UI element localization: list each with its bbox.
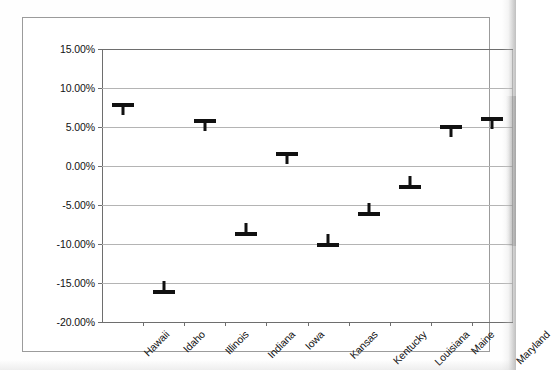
data-marker bbox=[358, 203, 380, 216]
x-axis-label-maryland: Maryland bbox=[514, 328, 552, 366]
y-axis-tick-mark bbox=[98, 322, 102, 323]
plot-area: 15.00%10.00%5.00%0.00%-5.00%-10.00%-15.0… bbox=[102, 49, 513, 322]
data-marker bbox=[153, 281, 175, 294]
data-marker bbox=[194, 119, 216, 132]
data-marker bbox=[399, 176, 421, 189]
y-axis-tick-label: -15.00% bbox=[57, 277, 95, 289]
x-axis-label-hawaii: Hawaii bbox=[141, 328, 171, 358]
data-marker bbox=[440, 125, 462, 138]
y-axis-tick-label: -20.00% bbox=[57, 316, 95, 328]
data-marker-stem bbox=[121, 106, 124, 115]
y-axis-tick-label: 5.00% bbox=[66, 121, 95, 133]
data-marker bbox=[235, 223, 257, 236]
data-marker-stem bbox=[162, 281, 165, 290]
data-marker-bar bbox=[317, 243, 339, 247]
data-marker-stem bbox=[491, 120, 494, 129]
x-axis-label-maine: Maine bbox=[469, 328, 497, 356]
x-axis-label-iowa: Iowa bbox=[302, 328, 326, 352]
y-axis-line bbox=[102, 49, 103, 322]
data-marker-stem bbox=[285, 155, 288, 164]
data-marker-bar bbox=[399, 185, 421, 189]
y-axis-tick-label: -5.00% bbox=[62, 199, 95, 211]
data-marker-stem bbox=[203, 122, 206, 131]
x-axis-category-labels: HawaiiIdahoIllinoisIndianaIowaKansasKent… bbox=[102, 326, 513, 370]
data-marker-stem bbox=[450, 128, 453, 137]
data-marker-bar bbox=[235, 232, 257, 236]
y-axis-tick-label: 10.00% bbox=[60, 82, 95, 94]
gridline bbox=[102, 49, 513, 50]
x-axis-label-kentucky: Kentucky bbox=[391, 328, 429, 366]
chart-outer-frame: 15.00%10.00%5.00%0.00%-5.00%-10.00%-15.0… bbox=[22, 17, 490, 352]
data-marker-stem bbox=[368, 203, 371, 212]
y-axis-tick-mark bbox=[98, 166, 102, 167]
y-axis-tick-mark bbox=[98, 205, 102, 206]
y-axis-tick-mark bbox=[98, 88, 102, 89]
y-axis-tick-mark bbox=[98, 244, 102, 245]
y-axis-tick-mark bbox=[98, 49, 102, 50]
data-marker-stem bbox=[327, 234, 330, 243]
x-axis-label-louisiana: Louisiana bbox=[432, 328, 472, 368]
y-axis-tick-mark bbox=[98, 283, 102, 284]
x-axis-label-illinois: Illinois bbox=[222, 328, 251, 357]
plot-right-edge bbox=[512, 49, 513, 322]
data-marker bbox=[481, 117, 503, 130]
gridline bbox=[102, 244, 513, 245]
y-axis-tick-label: -10.00% bbox=[57, 238, 95, 250]
data-marker bbox=[276, 152, 298, 165]
y-axis-tick-label: 15.00% bbox=[60, 43, 95, 55]
gridline bbox=[102, 166, 513, 167]
data-marker-bar bbox=[153, 290, 175, 294]
data-marker-bar bbox=[358, 212, 380, 216]
gridline bbox=[102, 205, 513, 206]
data-marker bbox=[317, 234, 339, 247]
x-axis-label-kansas: Kansas bbox=[347, 328, 380, 361]
data-marker-stem bbox=[244, 223, 247, 232]
x-axis-label-idaho: Idaho bbox=[180, 328, 207, 355]
x-axis-label-indiana: Indiana bbox=[265, 328, 297, 360]
data-marker-stem bbox=[409, 176, 412, 185]
data-marker bbox=[112, 103, 134, 116]
y-axis-tick-mark bbox=[98, 127, 102, 128]
y-axis-tick-label: 0.00% bbox=[66, 160, 95, 172]
gridline bbox=[102, 88, 513, 89]
